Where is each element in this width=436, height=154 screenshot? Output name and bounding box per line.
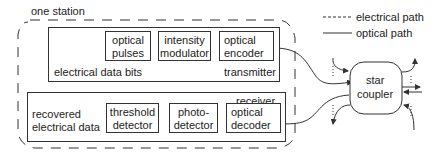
star-coupler-label-2: coupler [357, 88, 393, 100]
electrical-data-bits-label: electrical data bits [54, 66, 142, 78]
transmitter-label: transmitter [224, 66, 276, 78]
optical-decoder-block: optical decoder [226, 103, 281, 133]
legend-optical-label: optical path [356, 27, 412, 39]
recovered-label-2: electrical data [32, 121, 100, 133]
threshold-detector-block: threshold detector [106, 103, 159, 133]
photodetector-block: photo- detector [169, 103, 218, 133]
optical-encoder-block: optical encoder [219, 31, 274, 61]
recovered-label-1: recovered [32, 108, 81, 120]
star-coupler-label-1: star [366, 74, 384, 86]
station-label: one station [31, 5, 85, 17]
legend-electrical-label: electrical path [356, 11, 424, 23]
optical-pulses-block: optical pulses [105, 31, 151, 61]
intensity-modulator-block: intensity modulator [158, 31, 211, 61]
